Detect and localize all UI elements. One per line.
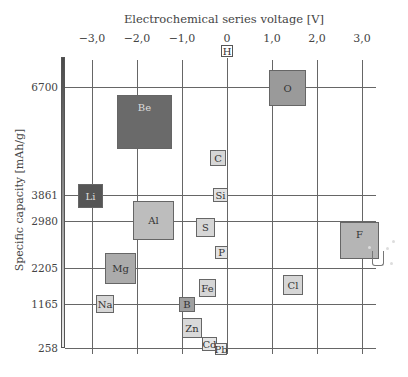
element-Zn: Zn xyxy=(182,318,202,338)
grid-line-vertical xyxy=(227,58,228,354)
element-Na: Na xyxy=(96,295,114,313)
element-H: H xyxy=(221,45,233,57)
bubble-icon xyxy=(368,246,371,249)
element-Be: Be xyxy=(117,95,172,149)
bubble-icon xyxy=(390,262,393,265)
y-tick: 2205 xyxy=(31,262,58,274)
element-P: P xyxy=(215,246,228,259)
y-tick: 258 xyxy=(38,342,58,354)
element-Pb: Pb xyxy=(215,343,227,355)
element-Si: Si xyxy=(213,188,228,202)
element-O: O xyxy=(269,70,306,106)
x-tick: −1,0 xyxy=(169,32,196,45)
x-tick: 3,0 xyxy=(353,32,371,45)
x-tick: 2,0 xyxy=(308,32,326,45)
x-tick: 0 xyxy=(224,32,231,45)
bubble-icon xyxy=(386,247,389,250)
element-B: B xyxy=(179,297,195,312)
x-tick: −3,0 xyxy=(79,32,106,45)
grid-line-horizontal xyxy=(65,221,376,222)
y-tick: 6700 xyxy=(31,81,58,93)
y-tick: 3861 xyxy=(31,189,58,201)
element-Cl: Cl xyxy=(283,275,303,295)
y-tick: 1165 xyxy=(31,298,58,310)
element-Mg: Mg xyxy=(105,253,136,284)
element-C: C xyxy=(210,150,226,166)
grid-line-vertical xyxy=(317,60,318,354)
y-tick: 2980 xyxy=(31,215,58,227)
element-Al: Al xyxy=(133,201,174,240)
x-tick: −2,0 xyxy=(124,32,151,45)
grid-line-horizontal xyxy=(65,87,376,88)
bubble-icon xyxy=(392,240,395,243)
grid-line-vertical xyxy=(362,60,363,354)
x-tick: 1,0 xyxy=(263,32,281,45)
colorbar-y-axis xyxy=(61,57,65,348)
element-S: S xyxy=(196,218,215,237)
x-axis-title: Electrochemical series voltage [V] xyxy=(0,12,408,26)
element-Li: Li xyxy=(78,184,103,208)
glass-icon xyxy=(372,251,384,266)
element-Fe: Fe xyxy=(199,279,216,297)
y-axis-title: Specific capacity [mAh/g] xyxy=(13,129,26,272)
